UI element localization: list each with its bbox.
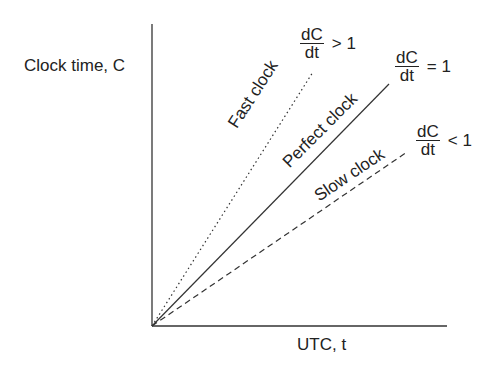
slope-numerator: dC — [395, 49, 419, 67]
x-axis-label: UTC, t — [297, 335, 346, 355]
slope-denominator: dt — [421, 141, 435, 158]
slope-relation: < 1 — [448, 131, 472, 151]
slope-numerator: dC — [416, 123, 440, 141]
perfect-clock-line — [152, 84, 389, 326]
slope-relation: = 1 — [427, 57, 451, 77]
slope-denominator: dt — [305, 44, 319, 61]
y-axis-label: Clock time, C — [24, 56, 125, 76]
slow-clock-slope: dCdt < 1 — [416, 123, 472, 158]
slope-relation: > 1 — [332, 34, 356, 54]
slope-denominator: dt — [400, 67, 414, 84]
slope-numerator: dC — [300, 26, 324, 44]
slow-clock-line — [152, 152, 407, 326]
perfect-clock-slope: dCdt = 1 — [395, 49, 451, 84]
fast-clock-slope: dCdt > 1 — [300, 26, 356, 61]
